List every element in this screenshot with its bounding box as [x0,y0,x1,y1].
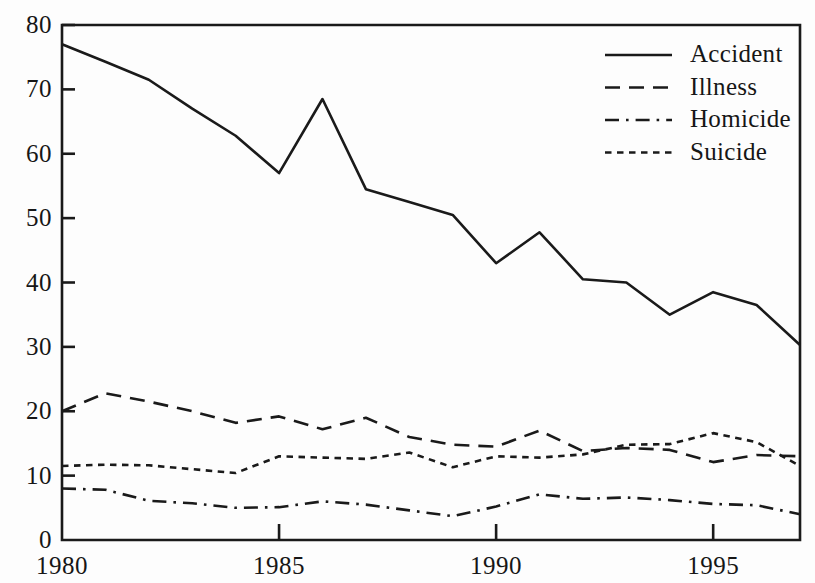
y-tick-label: 80 [0,12,52,37]
y-tick-label: 20 [0,398,52,423]
x-tick-label: 1995 [653,553,773,578]
legend-line-samples [605,55,672,153]
line-chart: 01020304050607080 1980198519901995 Accid… [0,0,815,583]
legend-label-suicide: Suicide [690,139,767,164]
y-tick-label: 10 [0,463,52,488]
x-tick-label: 1980 [2,553,122,578]
x-tick-label: 1985 [219,553,339,578]
y-tick-label: 50 [0,205,52,230]
legend-label-accident: Accident [690,41,783,66]
y-tick-label: 0 [0,527,52,552]
y-tick-label: 30 [0,334,52,359]
legend-label-illness: Illness [690,74,757,99]
x-tick-label: 1990 [436,553,556,578]
y-tick-label: 40 [0,270,52,295]
axis-frame [62,25,800,540]
y-tick-label: 60 [0,141,52,166]
y-tick-label: 70 [0,76,52,101]
series-line-illness [62,393,800,462]
legend-label-homicide: Homicide [690,106,791,131]
series-line-suicide [62,433,800,473]
series-line-homicide [62,489,800,517]
x-axis-ticks [279,524,713,540]
